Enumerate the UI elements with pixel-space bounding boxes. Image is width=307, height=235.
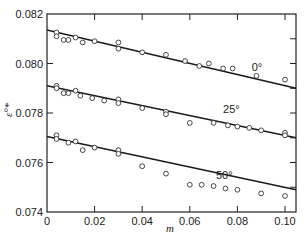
x-tick-label: 0.06 (179, 215, 200, 227)
data-points (54, 30, 287, 198)
series-label: 50° (216, 169, 233, 181)
data-point (283, 133, 288, 138)
data-point (283, 77, 288, 82)
data-point (283, 194, 288, 199)
data-point (230, 66, 235, 71)
data-point (223, 186, 228, 191)
x-tick-label: 0.04 (131, 215, 152, 227)
chart: 00.020.040.060.080.10 0.0740.0760.0780.0… (0, 0, 307, 235)
data-point (102, 98, 107, 103)
data-point (116, 40, 121, 45)
series-label: 25° (223, 103, 240, 115)
data-point (164, 171, 169, 176)
data-point (116, 151, 121, 156)
data-point (66, 91, 71, 96)
y-tick-label: 0.076 (15, 157, 43, 169)
data-point (187, 182, 192, 187)
data-point (61, 38, 66, 43)
data-point (54, 86, 59, 91)
x-tick-label: 0 (44, 215, 50, 227)
y-tick-label: 0.082 (15, 8, 43, 20)
fit-lines (47, 30, 296, 190)
data-point (235, 124, 240, 129)
data-point (61, 91, 66, 96)
data-point (73, 35, 78, 40)
fit-line (47, 137, 296, 190)
data-point (54, 34, 59, 39)
data-point (92, 145, 97, 150)
x-axis: 00.020.040.060.080.10 (44, 14, 296, 227)
x-axis-label: m (166, 222, 174, 234)
data-point (78, 93, 83, 98)
y-tick-label: 0.074 (15, 206, 43, 218)
data-point (140, 164, 145, 169)
data-point (66, 38, 71, 43)
data-point (199, 182, 204, 187)
data-point (211, 121, 216, 126)
data-point (259, 191, 264, 196)
data-point (206, 61, 211, 66)
y-tick-label: 0.080 (15, 58, 43, 70)
x-tick-label: 0.02 (84, 215, 105, 227)
data-point (66, 140, 71, 145)
data-point (116, 101, 121, 106)
data-point (90, 96, 95, 101)
data-point (140, 106, 145, 111)
x-tick-label: 0.10 (274, 215, 295, 227)
data-point (187, 121, 192, 126)
data-point (54, 137, 59, 142)
data-point (221, 66, 226, 71)
y-tick-label: 0.078 (15, 107, 43, 119)
data-point (116, 46, 121, 51)
data-point (197, 64, 202, 69)
data-point (254, 73, 259, 78)
y-axis-label: ε°* (2, 102, 14, 117)
data-point (80, 40, 85, 45)
y-axis: 0.0740.0760.0780.0800.082 (15, 8, 296, 218)
fit-line (47, 30, 296, 88)
data-point (259, 128, 264, 133)
data-point (80, 148, 85, 153)
data-point (73, 88, 78, 93)
data-point (73, 139, 78, 144)
data-point (140, 50, 145, 55)
x-tick-label: 0.08 (227, 215, 248, 227)
data-point (225, 123, 230, 128)
data-point (247, 125, 252, 130)
data-point (235, 187, 240, 192)
series-label: 0° (252, 61, 263, 73)
data-point (183, 59, 188, 64)
data-point (164, 52, 169, 57)
data-point (164, 112, 169, 117)
data-point (211, 184, 216, 189)
data-point (92, 39, 97, 44)
